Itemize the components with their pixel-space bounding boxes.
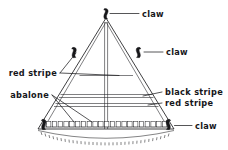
label-claw-top: claw <box>142 9 164 19</box>
stripe-red-lower <box>54 104 159 107</box>
label-claw-bottom-right: claw <box>195 121 217 131</box>
abalone-bead <box>70 122 74 127</box>
claw-marker-upper-right <box>136 47 141 57</box>
abalone-bead <box>116 122 120 127</box>
abalone-bead <box>64 122 68 127</box>
abalone-bead <box>139 122 143 127</box>
triangle-outline <box>38 18 174 129</box>
fringe-hatching <box>41 132 169 145</box>
abalone-bead <box>157 122 161 127</box>
label-red-stripe-left: red stripe <box>9 68 57 78</box>
abalone-bead <box>76 122 80 127</box>
triangle-body <box>38 18 174 129</box>
claw-marker-bottom-left <box>41 119 46 129</box>
triangle-outline-inner <box>45 22 168 127</box>
abalone-bead <box>81 122 85 127</box>
claw-marker-apex <box>104 8 108 18</box>
leader-red-stripe-left-a <box>60 73 119 76</box>
label-red-stripe-right: red stripe <box>165 98 213 108</box>
fringe-curve <box>38 131 174 139</box>
abalone-bead <box>134 122 138 127</box>
claw-marker-upper-left <box>72 47 77 57</box>
abalone-bead <box>52 122 56 127</box>
abalone-bead <box>128 122 132 127</box>
abalone-bead <box>99 122 103 127</box>
abalone-bead <box>145 122 149 127</box>
abalone-bead <box>47 122 51 127</box>
abalone-bead <box>105 122 109 127</box>
claw-marker-bottom-right <box>166 119 171 129</box>
regalia-diagram: claw claw claw red stripe abalone black … <box>0 0 228 150</box>
label-group: claw claw claw red stripe abalone black … <box>9 9 223 131</box>
figure-root: claw claw claw red stripe abalone black … <box>0 0 228 150</box>
leader-black-stripe <box>143 92 162 96</box>
abalone-bead <box>151 122 155 127</box>
leader-red-stripe-left-b <box>60 53 76 73</box>
stripe-black <box>59 95 154 98</box>
label-black-stripe-right: black stripe <box>165 87 223 97</box>
abalone-bead <box>93 122 97 127</box>
leader-abalone-a <box>52 95 92 122</box>
abalone-bead <box>87 122 91 127</box>
leader-lines <box>52 14 192 126</box>
bottom-fringe <box>38 131 174 146</box>
abalone-bead <box>122 122 126 127</box>
label-claw-upper-right: claw <box>166 47 188 57</box>
abalone-bead <box>110 122 114 127</box>
label-abalone: abalone <box>10 90 49 100</box>
abalone-bead-row <box>47 122 167 127</box>
abalone-bead <box>58 122 62 127</box>
